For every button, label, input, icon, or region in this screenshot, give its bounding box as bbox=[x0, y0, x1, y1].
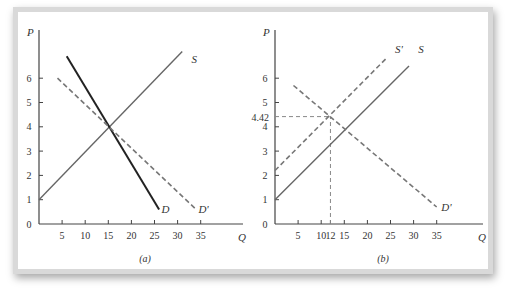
y-tick-label: 5 bbox=[27, 97, 32, 108]
y-tick-label: 6 bbox=[27, 73, 32, 84]
y-tick-label: 4 bbox=[27, 121, 32, 132]
y-tick-label: 1 bbox=[27, 194, 32, 205]
y-tick-label: 6 bbox=[263, 73, 268, 84]
x-tick-label: 30 bbox=[409, 230, 419, 241]
y-tick-label: 2 bbox=[263, 170, 268, 181]
x-axis-title: Q bbox=[238, 231, 246, 243]
curve-label: S bbox=[418, 43, 424, 55]
x-tick-label: 25 bbox=[386, 230, 396, 241]
supply-demand-figure: PQ01234565101520253035SDD'(a)PQ012345651… bbox=[0, 0, 511, 289]
curve-d-prime bbox=[293, 85, 436, 207]
y-axis-title: P bbox=[262, 26, 270, 38]
x-tick-label: 30 bbox=[173, 230, 183, 241]
curve-label: D' bbox=[197, 203, 209, 215]
panel-label: (b) bbox=[377, 253, 389, 265]
x-tick-label: 15 bbox=[339, 230, 349, 241]
x-tick-label: 12 bbox=[325, 230, 335, 241]
x-tick-label: 25 bbox=[150, 230, 160, 241]
y-tick-label: 5 bbox=[263, 97, 268, 108]
curve-label: D' bbox=[440, 201, 452, 213]
x-tick-label: 5 bbox=[60, 230, 65, 241]
y-tick-label: 4 bbox=[263, 121, 268, 132]
x-axis-title: Q bbox=[478, 231, 486, 243]
y-tick-label: 3 bbox=[27, 146, 32, 157]
panel-a: PQ01234565101520253035SDD'(a) bbox=[26, 26, 246, 265]
panel-b: PQ0123456510121520253035S'SD'4.42(b) bbox=[252, 26, 487, 265]
x-tick-label: 20 bbox=[126, 230, 136, 241]
curve-d-prime bbox=[57, 78, 196, 209]
x-tick-label: 35 bbox=[432, 230, 442, 241]
y-tick-label: 0 bbox=[27, 219, 32, 230]
curve-label: S bbox=[191, 53, 197, 65]
y-tick-label: 2 bbox=[27, 170, 32, 181]
panel-label: (a) bbox=[139, 253, 151, 265]
curve-d bbox=[67, 56, 159, 209]
equilibrium-price-label: 4.42 bbox=[252, 112, 270, 123]
x-tick-label: 5 bbox=[296, 230, 301, 241]
x-tick-label: 35 bbox=[196, 230, 206, 241]
x-tick-label: 15 bbox=[103, 230, 113, 241]
x-tick-label: 20 bbox=[362, 230, 372, 241]
y-tick-label: 0 bbox=[263, 219, 268, 230]
y-tick-label: 3 bbox=[263, 146, 268, 157]
curve-s bbox=[39, 51, 182, 199]
y-axis-title: P bbox=[26, 26, 34, 38]
curve-label: D bbox=[160, 203, 169, 215]
y-tick-label: 1 bbox=[263, 194, 268, 205]
curve-label: S' bbox=[395, 43, 404, 55]
x-tick-label: 10 bbox=[80, 230, 90, 241]
